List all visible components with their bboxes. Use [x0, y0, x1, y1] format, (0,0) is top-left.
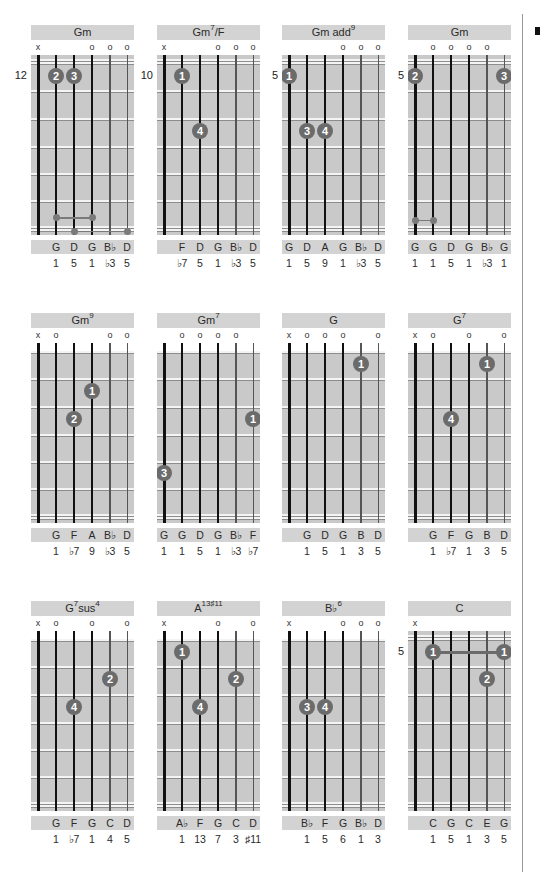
fret-line [408, 514, 511, 516]
note-name: A [316, 240, 334, 254]
fret-line [408, 351, 511, 353]
fret-line [282, 226, 385, 228]
fret-line [408, 146, 511, 148]
fret-line [31, 694, 134, 696]
fretboard: 112 [408, 631, 511, 811]
muted-string-marker: x [284, 617, 294, 629]
string-line [37, 343, 40, 523]
fret-line [408, 461, 511, 463]
scale-degrees: ♭751♭35 [157, 256, 260, 270]
string-markers: xoooo [282, 329, 385, 341]
string-line [378, 631, 379, 811]
fret-line [31, 59, 134, 61]
open-string-marker: o [231, 329, 241, 341]
scale-degree: 5 [116, 832, 138, 846]
fretboard: 14 [157, 55, 260, 235]
open-string-marker: o [338, 329, 348, 341]
fret-line [282, 776, 385, 778]
note-name: D [118, 528, 136, 542]
fret-line [408, 378, 511, 380]
finger-dot: 3 [299, 699, 315, 715]
fret-line [408, 118, 511, 120]
optional-note-link [74, 231, 127, 233]
fret-line [282, 62, 385, 64]
note-name: F [65, 816, 83, 830]
chord-diagram-gmadd9-5: Gm add9ooo5134GDAGB♭D1591♭35 [282, 25, 385, 275]
string-line [109, 55, 110, 235]
chord-name-superscript: 7 [462, 311, 466, 320]
string-line [235, 631, 236, 811]
chord-name: C [408, 601, 511, 616]
note-names-bar: GFAB♭D [31, 528, 134, 542]
fret-line [157, 514, 260, 516]
scale-degrees: 15613 [282, 832, 385, 846]
open-string-marker: o [231, 41, 241, 53]
note-names-bar: A♭FGCD [157, 816, 260, 830]
fret-line [31, 173, 134, 175]
string-line [324, 55, 326, 235]
fret-line [408, 200, 511, 202]
note-name: G [47, 528, 65, 542]
open-string-marker: o [248, 41, 258, 53]
string-line [163, 55, 166, 235]
fret-line [31, 146, 134, 148]
fretboard: 134 [282, 55, 385, 235]
string-line [450, 343, 452, 523]
fret-line [282, 666, 385, 668]
fret-line [282, 749, 385, 751]
string-markers: xooo [282, 617, 385, 629]
fret-line [282, 229, 385, 231]
muted-string-marker: x [410, 617, 420, 629]
string-markers: xooo [31, 41, 134, 53]
finger-dot: 4 [317, 699, 333, 715]
finger-dot: 4 [66, 699, 82, 715]
note-name: C [101, 816, 119, 830]
fret-line [31, 802, 134, 804]
string-line [414, 631, 417, 811]
finger-dot: 4 [192, 123, 208, 139]
optional-note-dot [412, 217, 419, 224]
fret-line [408, 749, 511, 751]
finger-dot: 1 [353, 356, 369, 372]
note-name: F [316, 816, 334, 830]
fret-line [31, 434, 134, 436]
string-line [55, 631, 58, 811]
open-string-marker: o [499, 329, 509, 341]
finger-dot: 1 [174, 68, 190, 84]
open-string-marker: o [373, 329, 383, 341]
string-line [73, 631, 75, 811]
string-line [181, 343, 184, 523]
fret-line [157, 118, 260, 120]
note-name: E [478, 816, 496, 830]
open-string-marker: o [248, 617, 258, 629]
string-line [217, 55, 219, 235]
muted-string-marker: x [33, 329, 43, 341]
note-name: B [478, 528, 496, 542]
string-markers: xooo [31, 617, 134, 629]
fret-line [157, 90, 260, 92]
finger-dot: 4 [192, 699, 208, 715]
chord-name-root: Gm [197, 314, 215, 326]
finger-dot: 4 [443, 411, 459, 427]
chord-diagram-g7: G7xooo14GFGBD1♭7135 [408, 313, 511, 563]
chord-name: Gm7 [157, 313, 260, 328]
note-name: F [191, 816, 209, 830]
string-line [109, 343, 110, 523]
open-string-marker: o [122, 329, 132, 341]
string-markers: ooo [282, 41, 385, 53]
fret-line [31, 749, 134, 751]
fret-line [31, 666, 134, 668]
note-name: G [209, 240, 227, 254]
note-names-bar: CGCEG [408, 816, 511, 830]
chord-name: A13♯11 [157, 601, 260, 616]
string-line [450, 631, 452, 811]
fret-line [282, 406, 385, 408]
chord-name-root: C [456, 602, 464, 614]
fret-line [282, 118, 385, 120]
string-line [432, 343, 435, 523]
muted-string-marker: x [284, 329, 294, 341]
fret-line [282, 488, 385, 490]
note-name: D [369, 816, 387, 830]
section-tab-marker [535, 27, 540, 35]
chord-name: G [282, 313, 385, 328]
